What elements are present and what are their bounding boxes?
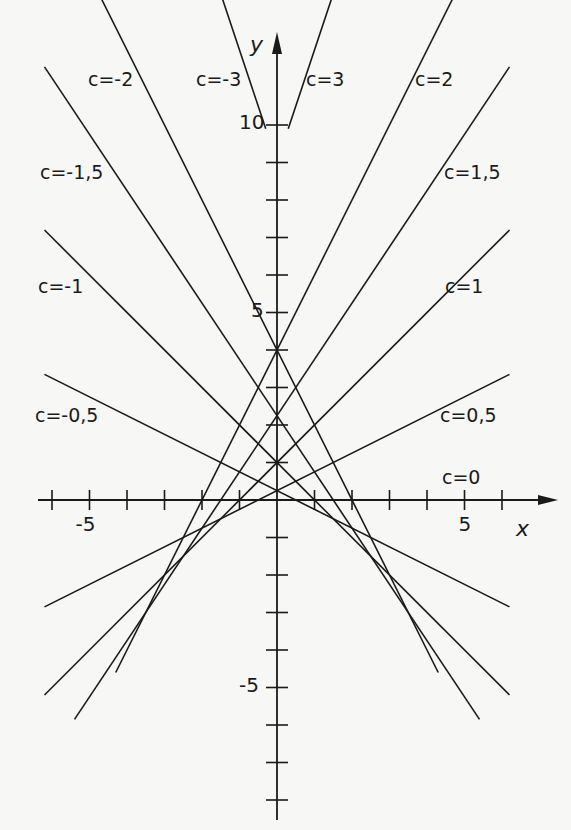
line-label: c=1 (445, 277, 483, 296)
family-line (288, 0, 511, 129)
line-label: c=3 (306, 70, 344, 89)
family-line (43, 0, 266, 129)
line-label: c=1,5 (444, 163, 501, 182)
line-label: c=-0,5 (35, 406, 98, 425)
x-tick-label: 5 (459, 514, 472, 534)
y-axis-label: y (250, 34, 263, 56)
x-axis-label: x (516, 518, 529, 540)
x-axis-arrow-icon (538, 495, 558, 505)
envelope-diagram: c=-3c=-2c=-1,5c=-1c=-0,5c=0c=0,5c=1c=1,5… (0, 0, 571, 830)
line-label: c=0,5 (440, 406, 497, 425)
line-label: c=0 (442, 468, 480, 487)
line-label: c=-2 (88, 70, 133, 89)
axes (38, 32, 558, 820)
y-axis-arrow-icon (272, 32, 282, 54)
line-label: c=-3 (196, 70, 241, 89)
y-tick-label: 5 (251, 300, 264, 320)
line-label: c=-1 (38, 277, 83, 296)
y-tick-label: 10 (239, 112, 264, 132)
line-label: c=-1,5 (40, 163, 103, 182)
family-line (45, 67, 480, 720)
line-label: c=2 (415, 70, 453, 89)
x-tick-label: -5 (76, 514, 96, 534)
y-tick-label: -5 (239, 675, 259, 695)
